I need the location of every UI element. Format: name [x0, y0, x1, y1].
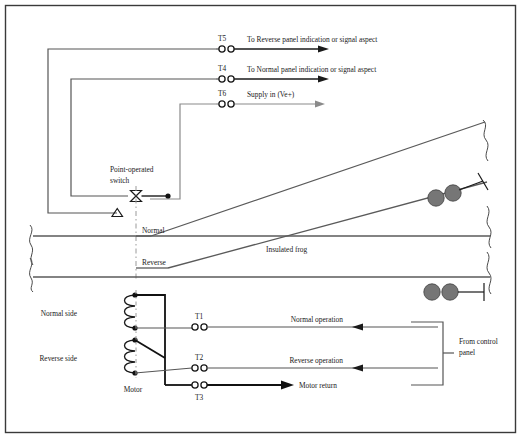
switch-node-dot: [165, 193, 170, 198]
label-point-operated-switch-line1: Point-operated: [110, 165, 154, 174]
label-reverse-side: Reverse side: [39, 354, 77, 363]
terminal-label-t3: T3: [195, 393, 204, 402]
terminal-dot-t3-b: [201, 382, 207, 388]
terminal-dot-t4-b: [228, 76, 234, 82]
label-point-operated-switch-line2: switch: [110, 176, 130, 185]
rail-joint-circle: [445, 185, 461, 201]
wiring-diagram-figure: T5 T4 T6 T1 T2 T3 To Reverse panel indic…: [0, 0, 521, 438]
terminal-dot-t3-a: [192, 382, 198, 388]
label-motor: Motor: [124, 385, 143, 394]
label-normal-route: Normal: [142, 226, 165, 235]
terminal-label-t1: T1: [195, 312, 204, 321]
terminal-dot-t1-a: [192, 324, 198, 330]
rail-joint-circle: [442, 284, 458, 300]
label-motor-return: Motor return: [299, 381, 337, 390]
terminal-dot-t2-a: [192, 365, 198, 371]
label-reverse-operation: Reverse operation: [289, 356, 343, 365]
label-insulated-frog: Insulated frog: [266, 245, 308, 254]
label-from-control-panel-line2: panel: [459, 348, 475, 357]
terminal-dot-t6-b: [228, 101, 234, 107]
rail-joint-circle: [424, 284, 440, 300]
label-supply-in: Supply in (Ve+): [247, 90, 295, 99]
terminal-label-t2: T2: [195, 353, 204, 362]
terminal-dot-t1-b: [201, 324, 207, 330]
label-reverse-route: Reverse: [142, 258, 167, 267]
terminal-label-t4: T4: [218, 64, 227, 73]
rail-joint-circle: [428, 190, 444, 206]
label-from-control-panel-line1: From control: [459, 337, 498, 346]
terminal-dot-t5-b: [228, 46, 234, 52]
terminal-label-t5: T5: [218, 34, 227, 43]
terminal-dot-t6-a: [219, 101, 225, 107]
label-to-reverse-panel: To Reverse panel indication or signal as…: [247, 35, 378, 44]
label-normal-side: Normal side: [41, 309, 78, 318]
terminal-label-t6: T6: [218, 89, 227, 98]
terminal-dot-t5-a: [219, 46, 225, 52]
label-normal-operation: Normal operation: [291, 315, 344, 324]
terminal-dot-t4-a: [219, 76, 225, 82]
terminal-dot-t2-b: [201, 365, 207, 371]
label-to-normal-panel: To Normal panel indication or signal asp…: [247, 65, 377, 74]
diagram-canvas: T5 T4 T6 T1 T2 T3 To Reverse panel indic…: [0, 0, 521, 438]
